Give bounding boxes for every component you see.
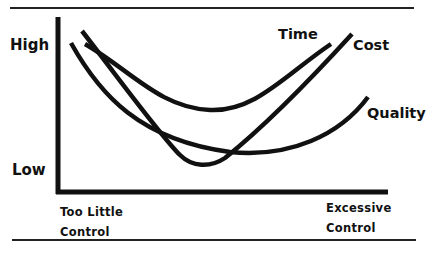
x-right-label-line2: Control <box>326 218 392 238</box>
x-right-label-line1: Excessive <box>326 198 392 218</box>
x-right-label: Excessive Control <box>326 198 392 238</box>
series-label-quality: Quality <box>367 105 426 121</box>
series-label-cost: Cost <box>353 37 389 53</box>
x-left-label: Too Little Control <box>60 202 123 242</box>
series-label-time: Time <box>278 26 318 42</box>
y-high-label: High <box>10 36 49 54</box>
y-low-label: Low <box>12 161 46 179</box>
series-line-cost <box>82 31 352 165</box>
x-left-label-line1: Too Little <box>60 202 123 222</box>
x-left-label-line2: Control <box>60 222 123 242</box>
series-line-quality <box>71 43 368 153</box>
series-line-time <box>85 44 331 110</box>
